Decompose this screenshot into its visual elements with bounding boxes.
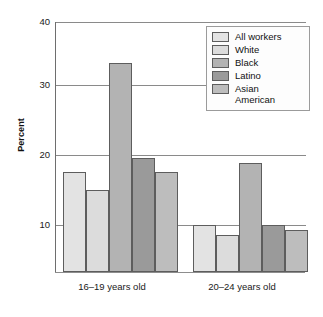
bar xyxy=(155,172,178,272)
y-tick-label-10: 10 xyxy=(22,220,50,230)
y-tick-label-20: 20 xyxy=(22,150,50,160)
legend-item-all-workers[interactable]: All workers xyxy=(212,31,305,42)
legend-label-asian-american: Asian American xyxy=(235,83,275,105)
bar xyxy=(132,158,155,272)
bar xyxy=(193,225,216,272)
legend-swatch-white xyxy=(212,45,229,55)
legend-label-white: White xyxy=(235,44,259,55)
legend-swatch-asian-american xyxy=(212,84,229,94)
bar xyxy=(285,230,308,272)
y-tick-label-30: 30 xyxy=(22,80,50,90)
bar xyxy=(239,163,262,272)
legend-item-black[interactable]: Black xyxy=(212,57,305,68)
bar xyxy=(86,190,109,272)
legend-swatch-all-workers xyxy=(212,32,229,42)
legend-item-asian-american[interactable]: Asian American xyxy=(212,83,305,105)
y-tick-label-40: 40 xyxy=(22,17,50,27)
bar xyxy=(63,172,86,272)
x-axis-line xyxy=(55,272,305,273)
bar xyxy=(262,225,285,272)
legend-label-latino: Latino xyxy=(235,70,261,81)
x-axis-label-group-1: 16–19 years old xyxy=(52,281,172,292)
bar xyxy=(109,63,132,272)
legend-swatch-black xyxy=(212,58,229,68)
legend: All workers White Black Latino Asian Ame… xyxy=(206,26,310,111)
legend-item-latino[interactable]: Latino xyxy=(212,70,305,81)
legend-label-all-workers: All workers xyxy=(235,31,281,42)
legend-item-white[interactable]: White xyxy=(212,44,305,55)
bar xyxy=(216,235,239,272)
legend-swatch-latino xyxy=(212,71,229,81)
bar-chart: Percent 40 30 20 10 16–19 years old 20–2… xyxy=(0,0,323,317)
x-axis-label-group-2: 20–24 years old xyxy=(182,281,302,292)
y-axis-title: Percent xyxy=(16,100,26,170)
legend-label-black: Black xyxy=(235,57,258,68)
